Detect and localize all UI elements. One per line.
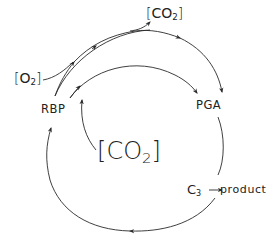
label-c3: C3	[187, 183, 201, 196]
label-product: product	[220, 184, 267, 195]
lower-arc-c3-to-rbp	[130, 198, 215, 231]
co2-input-line	[82, 100, 96, 150]
inner-arc-rbp-to-pga	[70, 66, 175, 98]
label-rbp: RBP	[41, 104, 65, 116]
o2-input-line	[43, 62, 73, 80]
cycle-diagram	[0, 0, 279, 242]
label-co2-out: [CO2]	[146, 6, 183, 20]
label-pga: PGA	[196, 100, 221, 112]
pga-to-c3-arc	[218, 117, 223, 175]
label-o2-in: [O2]	[14, 71, 42, 85]
label-co2-center: [CO2]	[97, 139, 161, 163]
co2-output-line	[130, 22, 150, 31]
outer-arc-rbp-to-pga	[55, 30, 150, 96]
